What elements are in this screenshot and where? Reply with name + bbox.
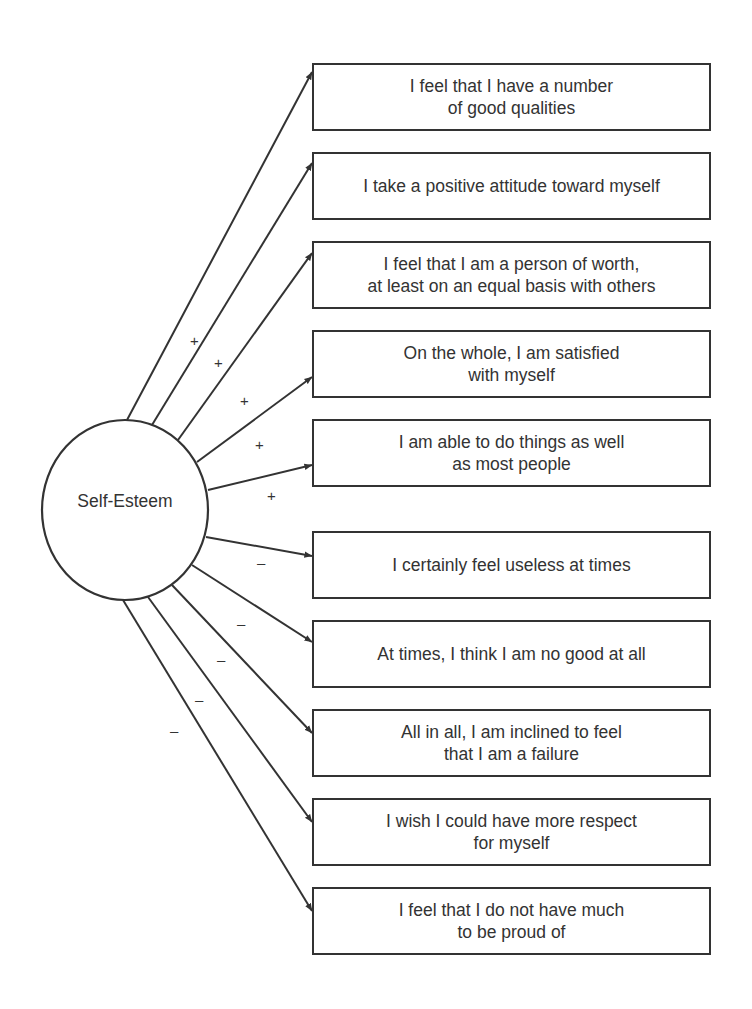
- loading-sign-1: +: [190, 333, 199, 348]
- item-text-9: I wish I could have more respect for mys…: [386, 810, 637, 854]
- item-box-6: I certainly feel useless at times: [312, 531, 711, 599]
- item-text-4: On the whole, I am satisfied with myself: [404, 342, 620, 386]
- loading-sign-4: +: [255, 437, 264, 452]
- item-text-8: All in all, I am inclined to feel that I…: [401, 721, 622, 765]
- item-text-7: At times, I think I am no good at all: [377, 643, 645, 665]
- loading-sign-6: –: [257, 555, 265, 570]
- loading-sign-10: –: [170, 723, 178, 738]
- item-box-9: I wish I could have more respect for mys…: [312, 798, 711, 866]
- loading-sign-2: +: [214, 355, 223, 370]
- item-text-6: I certainly feel useless at times: [392, 554, 630, 576]
- loading-arrow-7: [192, 565, 312, 642]
- item-box-5: I am able to do things as well as most p…: [312, 419, 711, 487]
- loading-arrow-5: [208, 465, 312, 490]
- loading-arrow-2: [152, 163, 312, 425]
- item-box-2: I take a positive attitude toward myself: [312, 152, 711, 220]
- loading-arrow-10: [123, 600, 312, 911]
- loading-sign-9: –: [195, 692, 203, 707]
- item-box-1: I feel that I have a number of good qual…: [312, 63, 711, 131]
- item-box-10: I feel that I do not have much to be pro…: [312, 887, 711, 955]
- self-esteem-factor-label: Self-Esteem: [42, 490, 208, 512]
- item-box-4: On the whole, I am satisfied with myself: [312, 330, 711, 398]
- item-text-3: I feel that I am a person of worth, at l…: [368, 253, 656, 297]
- item-text-1: I feel that I have a number of good qual…: [410, 75, 613, 119]
- item-text-2: I take a positive attitude toward myself: [363, 175, 660, 197]
- loading-arrow-9: [148, 597, 312, 822]
- item-text-5: I am able to do things as well as most p…: [399, 431, 625, 475]
- loading-sign-5: +: [267, 488, 276, 503]
- loading-sign-7: –: [237, 616, 245, 631]
- item-text-10: I feel that I do not have much to be pro…: [399, 899, 625, 943]
- loading-sign-8: –: [217, 652, 225, 667]
- item-box-3: I feel that I am a person of worth, at l…: [312, 241, 711, 309]
- loading-sign-3: +: [240, 393, 249, 408]
- item-box-8: All in all, I am inclined to feel that I…: [312, 709, 711, 777]
- item-box-7: At times, I think I am no good at all: [312, 620, 711, 688]
